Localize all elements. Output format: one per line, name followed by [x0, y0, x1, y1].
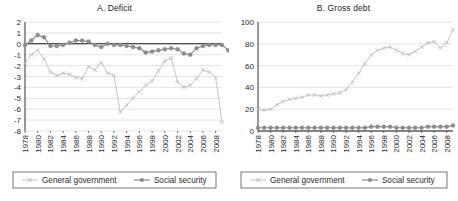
x-axis-tick-label: 2008 — [212, 134, 221, 152]
legend-item-label[interactable]: Social security — [154, 176, 208, 185]
y-axis-tick-label: 0 — [250, 127, 255, 136]
data-point-marker — [407, 126, 411, 130]
x-axis-tick-label: 1996 — [367, 134, 376, 152]
y-axis-tick-label: -3 — [14, 73, 22, 82]
series-line — [25, 50, 222, 122]
data-point-marker — [357, 71, 361, 75]
y-axis-tick-label: -7 — [14, 116, 22, 125]
y-axis-tick-label: 40 — [245, 83, 254, 92]
y-axis-tick-label: -5 — [14, 94, 22, 103]
x-axis-tick-label: 2004 — [418, 134, 427, 152]
data-point-marker — [369, 125, 373, 129]
x-axis-tick-label: 1982 — [46, 134, 55, 152]
x-axis-tick-label: 1986 — [72, 134, 81, 152]
x-axis-tick-label: 1998 — [380, 134, 389, 152]
data-point-marker — [131, 45, 135, 49]
data-point-marker — [29, 39, 33, 43]
data-point-marker — [23, 43, 27, 47]
y-axis-tick-label: 2 — [17, 18, 22, 27]
data-point-marker — [300, 126, 304, 130]
data-point-marker — [432, 125, 436, 129]
data-point-marker — [176, 47, 180, 51]
legend-item-label[interactable]: Social security — [382, 176, 436, 185]
data-point-marker — [413, 50, 417, 54]
legend-item-label[interactable]: General government — [42, 176, 117, 185]
data-point-marker — [319, 126, 323, 130]
y-axis-tick-label: 60 — [245, 62, 254, 71]
data-point-marker — [87, 40, 91, 44]
data-point-marker — [344, 126, 348, 130]
data-point-marker — [137, 46, 141, 50]
data-point-marker — [201, 44, 205, 48]
x-axis-tick-label: 1994 — [355, 134, 364, 152]
data-point-marker — [294, 126, 298, 130]
data-point-marker — [144, 51, 148, 55]
x-axis-tick-label: 1998 — [148, 134, 157, 152]
data-point-marker — [420, 45, 424, 49]
data-point-marker — [36, 33, 40, 37]
data-point-marker — [376, 48, 380, 52]
x-axis-tick-label: 1988 — [317, 134, 326, 152]
data-point-marker — [42, 57, 46, 61]
data-point-marker — [67, 41, 71, 45]
data-point-marker — [163, 47, 167, 51]
data-point-marker — [388, 125, 392, 129]
data-point-marker — [451, 28, 455, 32]
data-point-marker — [112, 43, 116, 47]
data-point-marker — [325, 126, 329, 130]
x-axis-tick-label: 2004 — [186, 134, 195, 152]
data-point-marker — [439, 46, 443, 50]
x-axis-tick-label: 1990 — [97, 134, 106, 152]
data-point-marker — [125, 44, 129, 48]
x-axis-tick-label: 2000 — [161, 134, 170, 152]
data-point-marker — [394, 48, 398, 52]
data-point-marker — [125, 103, 129, 107]
data-point-marker — [350, 80, 354, 84]
data-point-marker — [106, 71, 110, 75]
y-axis-tick-label: -2 — [14, 62, 22, 71]
data-point-marker — [306, 126, 310, 130]
data-point-marker — [256, 126, 260, 130]
data-point-marker — [262, 126, 266, 130]
x-axis-tick-label: 1980 — [34, 134, 43, 152]
y-axis-tick-label: 1 — [17, 29, 22, 38]
data-point-marker — [169, 46, 173, 50]
data-point-marker — [80, 39, 84, 43]
x-axis-tick-label: 1992 — [342, 134, 351, 152]
data-point-marker — [99, 45, 103, 49]
data-point-marker — [313, 126, 317, 130]
data-point-marker — [48, 44, 52, 48]
y-axis-tick-label: 100 — [241, 18, 255, 27]
data-point-marker — [401, 126, 405, 130]
x-axis-tick-label: 1984 — [59, 134, 68, 152]
data-point-marker — [195, 46, 199, 50]
legend-item-label[interactable]: General government — [270, 176, 345, 185]
data-point-marker — [93, 43, 97, 47]
data-point-marker — [281, 100, 285, 104]
data-point-marker — [369, 53, 373, 57]
y-axis-tick-label: -6 — [14, 105, 22, 114]
data-point-marker — [106, 42, 110, 46]
data-point-marker — [163, 59, 167, 63]
data-point-marker — [137, 90, 141, 94]
data-point-marker — [426, 125, 430, 129]
x-axis-tick-label: 1982 — [279, 134, 288, 152]
legend-circle-marker-icon — [368, 178, 372, 182]
data-point-marker — [99, 60, 103, 64]
data-point-marker — [207, 70, 211, 74]
data-point-marker — [36, 48, 40, 52]
panel-a-deficit: A. Deficit 210-1-2-3-4-5-6-7-81978198019… — [0, 0, 229, 201]
data-point-marker — [350, 126, 354, 130]
data-point-marker — [195, 77, 199, 81]
data-point-marker — [438, 125, 442, 129]
data-point-marker — [74, 39, 78, 43]
data-point-marker — [445, 125, 449, 129]
data-point-marker — [42, 35, 46, 39]
data-point-marker — [338, 126, 342, 130]
data-point-marker — [182, 52, 186, 56]
data-point-marker — [331, 126, 335, 130]
data-point-marker — [156, 48, 160, 52]
data-point-marker — [201, 68, 205, 72]
y-axis-tick-label: 20 — [245, 105, 254, 114]
data-point-marker — [363, 126, 367, 130]
